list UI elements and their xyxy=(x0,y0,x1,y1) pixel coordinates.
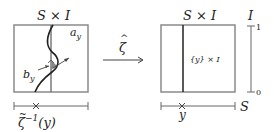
diag-arrowhead-icon xyxy=(64,58,69,62)
diagram: S × I ay by ζ−1(y) ~ ζ xyxy=(0,0,274,132)
map-hat: ^ xyxy=(120,32,128,43)
tilde-mark: ~ xyxy=(19,109,27,119)
y-point-label: y xyxy=(178,108,186,122)
i-axis-label: I xyxy=(247,8,254,23)
fiber-label: {y} × I xyxy=(190,55,220,64)
label-a: ay xyxy=(70,26,82,41)
left-panel: S × I ay by ζ−1(y) ~ xyxy=(14,8,88,130)
label-b: by xyxy=(23,68,35,83)
tick-1-label: 1 xyxy=(256,23,261,32)
right-panel: S × I {y} × I y S I 1 0 xyxy=(161,8,261,122)
map-arrow: ζ ^ xyxy=(103,32,143,63)
left-title: S × I xyxy=(37,8,71,23)
curve-path xyxy=(35,25,58,92)
s-axis-label: S xyxy=(240,99,249,114)
tick-0-label: 0 xyxy=(256,88,261,97)
right-title: S × I xyxy=(183,8,217,23)
